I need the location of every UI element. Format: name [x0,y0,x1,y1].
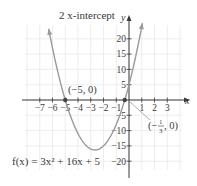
chart-title: 2 x-intercept [59,9,115,21]
x-tick-label: −4 [73,103,83,113]
axes [22,15,190,178]
svg-text:1: 1 [159,118,163,126]
intercept-dot [123,98,127,102]
y-tick-label: 10 [117,65,127,75]
y-axis-label: y [120,12,126,23]
x-tick-label: 2 [152,103,157,113]
y-tick-label: 15 [117,49,127,59]
x-tick-label: −7 [35,103,45,113]
y-tick-label: 5 [121,80,126,90]
y-tick-label: 20 [117,34,127,44]
parabola-chart: −7−6−5−4−3−2−11232015105−5−10−15−20 x y … [0,0,197,186]
x-axis-label: x [184,95,190,106]
point-label-right: (− 1 3 , 0) [148,118,179,135]
intercept-dot [63,98,67,102]
svg-text:3: 3 [159,127,163,135]
x-tick-label: 3 [165,103,170,113]
point-label-left: (−5, 0) [68,84,97,96]
x-tick-label: −3 [86,103,96,113]
x-tick-label: −6 [47,103,57,113]
svg-text:(−: (− [148,120,157,132]
y-tick-label: −15 [111,141,126,151]
svg-text:, 0): , 0) [164,120,179,132]
x-tick-label: −2 [98,103,108,113]
function-label: f(x) = 3x² + 16x + 5 [12,155,100,168]
y-tick-label: −20 [111,157,126,167]
